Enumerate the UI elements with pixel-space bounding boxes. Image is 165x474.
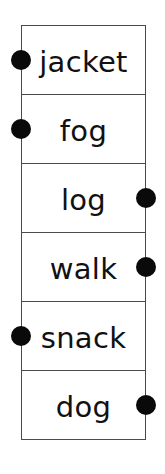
word-cell-snack: snack — [22, 302, 145, 371]
word-cell-walk: walk — [22, 233, 145, 302]
connector-dot-right[interactable] — [136, 188, 156, 208]
word-label: walk — [50, 251, 118, 284]
word-cell-jacket: jacket — [22, 26, 145, 95]
word-column: jacket fog log walk snack dog — [21, 25, 146, 440]
word-cell-dog: dog — [22, 371, 145, 439]
connector-dot-left[interactable] — [11, 50, 31, 70]
word-label: snack — [41, 320, 127, 353]
word-cell-log: log — [22, 164, 145, 233]
word-label: dog — [56, 389, 111, 422]
word-label: log — [61, 182, 106, 215]
word-label: fog — [60, 113, 107, 146]
connector-dot-left[interactable] — [11, 119, 31, 139]
connector-dot-right[interactable] — [136, 395, 156, 415]
connector-dot-right[interactable] — [136, 257, 156, 277]
word-cell-fog: fog — [22, 95, 145, 164]
connector-dot-left[interactable] — [11, 326, 31, 346]
word-label: jacket — [39, 44, 128, 77]
